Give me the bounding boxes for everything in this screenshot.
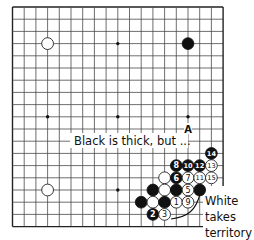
- move-number: 6: [174, 174, 180, 183]
- caption-black-is-thick: Black is thick, but ...: [74, 134, 191, 148]
- caption-territory: territory: [205, 226, 252, 240]
- move-number: 3: [162, 210, 167, 219]
- move-number: 11: [196, 174, 204, 182]
- move-number: 15: [207, 174, 215, 182]
- white-stone-13: 13: [206, 160, 218, 172]
- move-number: 13: [207, 162, 215, 170]
- white-stone-3: 3: [159, 209, 171, 221]
- move-number: 14: [207, 150, 217, 158]
- white-stone-11: 11: [194, 172, 206, 184]
- black-stone-10: 10: [182, 160, 194, 172]
- white-stone-15: 15: [206, 172, 218, 184]
- caption-takes: takes: [205, 210, 236, 224]
- black-stone: [147, 184, 159, 196]
- caption-white: White: [205, 194, 238, 208]
- black-stone-14: 14: [206, 148, 218, 160]
- move-number: 9: [185, 198, 190, 207]
- black-stone: [182, 38, 194, 50]
- black-stone: [170, 184, 182, 196]
- star-point: [116, 42, 119, 45]
- black-stone: [159, 196, 171, 208]
- black-stone-2: 2: [147, 209, 159, 221]
- move-number: 1: [174, 198, 179, 207]
- white-stone-7: 7: [182, 172, 194, 184]
- white-stone: [147, 196, 159, 208]
- star-point: [116, 115, 119, 118]
- move-number: 7: [185, 174, 190, 183]
- move-number: 12: [195, 162, 205, 170]
- black-stone-12: 12: [194, 160, 206, 172]
- star-point: [186, 115, 189, 118]
- white-stone: [159, 184, 171, 196]
- move-number: 5: [185, 186, 190, 195]
- white-stone-5: 5: [182, 184, 194, 196]
- white-stone-9: 9: [182, 196, 194, 208]
- black-stone-8: 8: [170, 160, 182, 172]
- move-number: 2: [150, 210, 156, 219]
- black-stone-6: 6: [170, 172, 182, 184]
- white-stone-1: 1: [170, 196, 182, 208]
- move-number: 8: [174, 161, 180, 170]
- white-stone: [42, 38, 54, 50]
- white-stone: [42, 184, 54, 196]
- star-point: [116, 188, 119, 191]
- move-number: 10: [183, 162, 193, 170]
- star-point: [46, 115, 49, 118]
- black-stone: [135, 196, 147, 208]
- go-board-diagram: 12356789101112131415 A Black is thick, b…: [0, 0, 254, 240]
- white-stone: [159, 172, 171, 184]
